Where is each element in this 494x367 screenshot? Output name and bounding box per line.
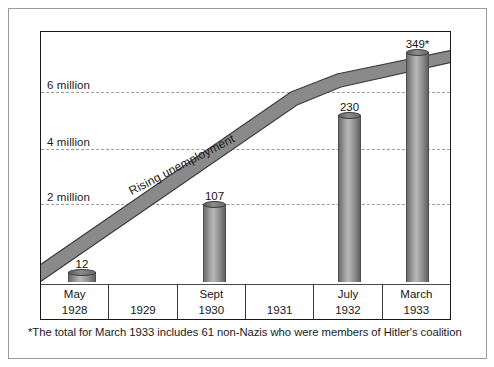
axis-cell-1929: 1929 [109, 284, 177, 319]
axis-year-label: 1933 [404, 302, 430, 318]
axis-month-label: May [64, 286, 86, 302]
axis-year-label: 1929 [130, 302, 156, 318]
axis-cell-march-1933: March 1933 [383, 284, 450, 319]
rising-unemployment-band [41, 32, 450, 319]
x-axis-table: May 1928 1929 Sept 1930 1931 July 19 [41, 284, 450, 319]
chart-figure: 6 million 4 million 2 million Rising une… [0, 0, 494, 367]
plot-area: 6 million 4 million 2 million Rising une… [41, 32, 450, 319]
bar-may-1928: 12 [68, 272, 96, 282]
axis-year-label: 1928 [62, 302, 88, 318]
bar-sept-1930: 107 [203, 204, 226, 282]
cylinder-body [203, 204, 226, 282]
axis-month-label: March [400, 286, 432, 302]
axis-cell-may-1928: May 1928 [41, 284, 109, 319]
axis-year-label: 1931 [267, 302, 293, 318]
chart-plot-box: 6 million 4 million 2 million Rising une… [40, 31, 451, 320]
bar-march-1933: 349* [406, 52, 429, 282]
axis-cell-1931: 1931 [246, 284, 314, 319]
gridline-4-million [41, 149, 450, 150]
cylinder-top [203, 201, 226, 208]
cylinder-top [338, 112, 361, 119]
axis-year-label: 1932 [335, 302, 361, 318]
cylinder-top [406, 49, 429, 56]
bar-july-1932: 230 [338, 115, 361, 282]
axis-month-label: Sept [199, 286, 223, 302]
axis-month-label: July [338, 286, 358, 302]
chart-footnote: *The total for March 1933 includes 61 no… [28, 326, 468, 338]
axis-cell-sept-1930: Sept 1930 [178, 284, 246, 319]
y-axis-label-2-million: 2 million [47, 191, 90, 203]
gridline-2-million [41, 204, 450, 205]
axis-cell-july-1932: July 1932 [314, 284, 382, 319]
cylinder-top [68, 269, 96, 276]
axis-year-label: 1930 [199, 302, 225, 318]
cylinder-body [406, 52, 429, 282]
band-label-rising-unemployment: Rising unemployment [127, 131, 238, 198]
y-axis-label-6-million: 6 million [47, 79, 90, 91]
gridline-6-million [41, 92, 450, 93]
y-axis-label-4-million: 4 million [47, 136, 90, 148]
cylinder-body [338, 115, 361, 282]
